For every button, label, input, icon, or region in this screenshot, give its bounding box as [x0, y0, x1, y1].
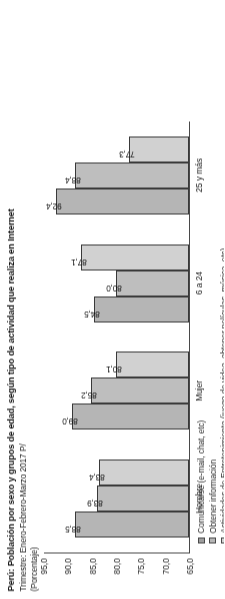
bar[interactable]: 89,0	[72, 403, 189, 429]
bar[interactable]: 84,5	[94, 296, 189, 322]
bar-value-label: 87,1	[72, 257, 88, 267]
y-axis-tick-label: 65,0	[185, 558, 195, 574]
bar-value-label: 77,3	[119, 149, 135, 159]
bar-value-label: 84,5	[84, 309, 100, 319]
bar[interactable]: 85,2	[91, 377, 189, 403]
bar-value-label: 83,9	[87, 498, 103, 508]
bar-value-label: 85,2	[81, 390, 97, 400]
bar-groups: 88,583,983,4Hombre89,085,280,1Mujer84,58…	[44, 121, 189, 552]
bar-value-label: 83,4	[90, 472, 106, 482]
y-axis-tick-label: 90,0	[63, 558, 73, 574]
bar-value-label: 80,1	[106, 364, 122, 374]
bar-value-label: 88,4	[65, 175, 81, 185]
bar[interactable]: 88,5	[75, 511, 189, 537]
legend-label: Comunicarse (e-mail, chat, etc)	[196, 420, 206, 533]
chart-unit-label: (Porcentaje)	[29, 161, 40, 591]
legend-swatch-icon	[209, 537, 216, 543]
legend-item[interactable]: Obtener información	[208, 248, 218, 543]
bar[interactable]: 83,9	[97, 485, 189, 511]
bar-group: 88,583,983,4Hombre	[44, 444, 189, 552]
y-axis-tick-label: 80,0	[112, 558, 122, 574]
bar-value-label: 92,4	[46, 201, 62, 211]
legend-swatch-icon	[198, 537, 205, 543]
legend-swatch-icon	[221, 537, 225, 543]
legend-item[interactable]: Actividades de Entretenimiento (juego de…	[219, 248, 224, 543]
bar[interactable]: 80,1	[116, 351, 189, 377]
bar-group: 92,488,477,325 y más	[44, 121, 189, 229]
chart-canvas: Perú: Población por sexo y grupos de eda…	[0, 0, 224, 599]
bar[interactable]: 77,3	[129, 136, 189, 162]
bar[interactable]: 83,4	[99, 459, 189, 485]
y-axis-tick-label: 75,0	[136, 558, 146, 574]
bar-value-label: 88,5	[65, 524, 81, 534]
bar-group: 89,085,280,1Mujer	[44, 337, 189, 445]
bar-value-label: 89,0	[62, 416, 78, 426]
chart-title-block: Perú: Población por sexo y grupos de eda…	[6, 161, 40, 591]
y-axis-tick-label: 95,0	[39, 558, 49, 574]
chart-page: Perú: Población por sexo y grupos de eda…	[0, 0, 224, 599]
chart-subtitle: Trimestre: Enero-Febrero-Marzo 2017 P/	[18, 161, 29, 591]
legend-label: Obtener información	[208, 459, 218, 533]
legend-label: Actividades de Entretenimiento (juego de…	[219, 248, 224, 533]
page-title: Perú: Población por sexo y grupos de eda…	[6, 161, 18, 591]
chart-legend: Comunicarse (e-mail, chat, etc)Obtener i…	[196, 248, 224, 543]
bar[interactable]: 88,4	[75, 162, 189, 188]
bar[interactable]: 87,1	[81, 244, 189, 270]
legend-item[interactable]: Comunicarse (e-mail, chat, etc)	[196, 248, 206, 543]
y-axis-tick-label: 70,0	[161, 558, 171, 574]
bar-value-label: 80,0	[106, 283, 122, 293]
bar-group: 84,580,087,16 a 24	[44, 229, 189, 337]
plot-area: 95,090,085,080,075,070,065,0 88,583,983,…	[44, 121, 190, 553]
bar[interactable]: 80,0	[116, 270, 189, 296]
bar[interactable]: 92,4	[56, 188, 189, 214]
category-label: 25 y más	[194, 121, 204, 229]
y-axis-tick-label: 85,0	[88, 558, 98, 574]
